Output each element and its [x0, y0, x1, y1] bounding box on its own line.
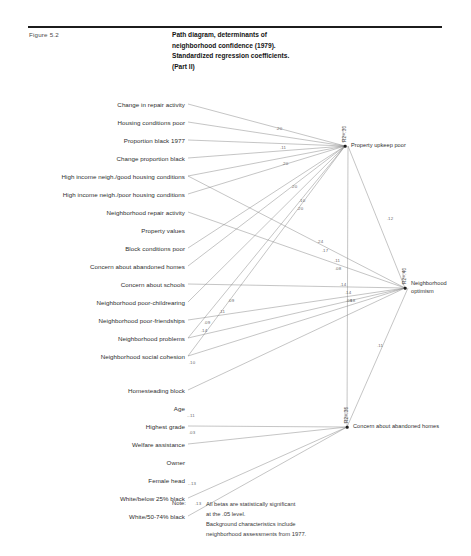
path-edge [188, 122, 345, 146]
path-edge [347, 146, 348, 427]
path-edge [188, 176, 405, 288]
path-coefficient: .08 [346, 298, 352, 303]
path-coefficient: .09 [204, 320, 210, 325]
outcome-label-line: Concern about abandoned homes [353, 423, 439, 431]
path-edge [188, 288, 405, 390]
note-line: neighborhood assessments from 1977. [206, 530, 306, 540]
predictor-label: Neighborhood social cohesion [101, 353, 185, 360]
outcome-label: Property upkeep poor [351, 142, 406, 150]
predictor-label: Proportion black 1977 [124, 137, 185, 144]
path-coefficient: .17 [322, 248, 328, 253]
predictor-label: Owner [167, 459, 185, 466]
outcome-label-line: Neighborhood [411, 280, 447, 288]
path-edge [188, 427, 347, 498]
path-edge [188, 146, 345, 158]
path-coefficient: -.13 [188, 481, 196, 486]
predictor-label: Neighborhood poor-childrearing [96, 299, 185, 306]
note-line: All betas are statistically significant [206, 500, 306, 510]
path-coefficient: .11 [280, 145, 286, 150]
predictor-label: Neighborhood problems [118, 335, 185, 342]
predictor-label: Homesteading block [128, 387, 185, 394]
predictor-label: Concern about schools [121, 281, 185, 288]
outcome-node [344, 145, 347, 148]
r-squared-label: R2=.40 [402, 268, 407, 284]
path-coefficient: .09 [228, 298, 234, 303]
path-coefficient: .14 [345, 290, 351, 295]
path-coefficient: .08 [335, 266, 341, 271]
path-edge [348, 146, 405, 288]
path-edge [188, 140, 345, 146]
predictor-label: Change proportion black [116, 155, 185, 162]
note-line: Background characteristics include [206, 520, 306, 530]
path-coefficient: .10 [299, 198, 305, 203]
predictor-label: Housing conditions poor [117, 119, 185, 126]
path-coefficient: .20 [291, 184, 297, 189]
path-coefficient: .20 [282, 161, 288, 166]
predictor-label: White/50-74% black [129, 513, 185, 520]
note-line: at the .05 level. [206, 510, 306, 520]
path-coefficient: -.11 [187, 413, 195, 418]
path-edges-layer [0, 0, 471, 556]
path-edge [188, 426, 347, 427]
outcome-label-line: Property upkeep poor [351, 142, 406, 150]
path-edge [188, 146, 345, 194]
path-coefficient: .13 [195, 501, 201, 506]
figure-page: Figure 5.2 Path diagram, determinants of… [0, 0, 471, 556]
outcome-label: Neighborhoodoptimism [411, 280, 447, 295]
path-diagram: Change in repair activityHousing conditi… [0, 0, 471, 556]
outcome-node [346, 426, 349, 429]
path-edge [188, 427, 347, 444]
predictor-label: Age [174, 405, 185, 412]
outcome-label-line: optimism [411, 288, 447, 296]
predictor-label: Neighborhood poor-friendships [99, 317, 185, 324]
outcome-node [404, 287, 407, 290]
path-edge [188, 146, 345, 248]
r-squared-label: R2=.36 [344, 407, 349, 423]
path-coefficient: .11 [377, 343, 383, 348]
path-edge [188, 284, 405, 288]
note-body: All betas are statistically significant … [206, 500, 306, 540]
r-squared-label: R2=.30 [342, 126, 347, 142]
predictor-label: Welfare assistance [132, 441, 185, 448]
path-coefficient: .24 [317, 239, 323, 244]
path-edge [188, 104, 345, 146]
predictor-label: Block conditions poor [125, 245, 185, 252]
predictor-label: Neighborhood repair activity [107, 209, 185, 216]
path-coefficient: .20 [276, 126, 282, 131]
path-coefficient: .11 [334, 258, 340, 263]
note-label: Note: [172, 500, 186, 506]
path-edge [188, 288, 405, 320]
path-coefficient: .11 [219, 309, 225, 314]
path-coefficient: .14 [340, 282, 346, 287]
predictor-label: Change in repair activity [117, 101, 185, 108]
path-coefficient: .03 [189, 430, 195, 435]
predictor-label: High income neigh./poor housing conditio… [63, 191, 185, 198]
predictor-label: Highest grade [146, 423, 185, 430]
path-edge [188, 146, 345, 302]
predictor-label: High income neigh./good housing conditio… [61, 173, 185, 180]
path-edge [188, 146, 345, 176]
predictor-label: Female head [148, 477, 185, 484]
path-coefficient: .20 [297, 206, 303, 211]
path-coefficient: .14 [201, 328, 207, 333]
outcome-label: Concern about abandoned homes [353, 423, 439, 431]
predictor-label: Concern about abandoned homes [90, 263, 185, 270]
path-edge [188, 212, 405, 288]
path-coefficient: .10 [189, 360, 195, 365]
predictor-label: Property values [141, 227, 185, 234]
path-edge [347, 288, 408, 427]
path-coefficient: .12 [387, 216, 393, 221]
